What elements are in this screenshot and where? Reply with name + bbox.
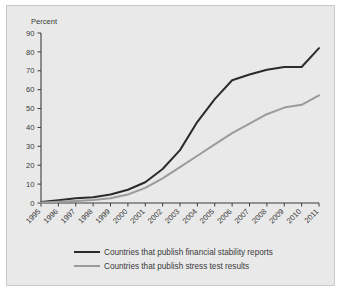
y-axis-ticks: 0102030405060708090	[26, 29, 41, 208]
x-axis-tick-label: 2004	[180, 207, 198, 225]
x-axis-tick-label: 2001	[128, 207, 146, 225]
x-axis-tick-label: 2003	[163, 207, 181, 225]
y-axis-tick-label: 80	[26, 48, 34, 57]
x-axis-tick-label: 1997	[59, 207, 77, 225]
chart-series-group	[41, 48, 319, 202]
y-axis-label: Percent	[31, 17, 58, 26]
y-axis-tick-label: 10	[26, 180, 34, 189]
x-axis-tick-label: 2008	[250, 207, 268, 225]
y-axis-tick-label: 50	[26, 104, 34, 113]
x-axis-tick-label: 1995	[24, 207, 42, 225]
y-axis-tick-label: 90	[26, 29, 34, 38]
x-axis-tick-label: 2000	[111, 207, 129, 225]
chart-figure: Percent 0102030405060708090 199519961997…	[0, 0, 341, 292]
line-chart: Percent 0102030405060708090 199519961997…	[0, 0, 341, 292]
x-axis-tick-label: 2005	[198, 207, 216, 225]
x-axis-ticks: 1995199619971998199920002001200220032004…	[24, 203, 320, 225]
y-axis-tick-label: 70	[26, 66, 34, 75]
y-axis-label-text: Percent	[31, 17, 58, 26]
series-line	[41, 48, 319, 202]
x-axis-tick-label: 2002	[146, 207, 164, 225]
x-axis-tick-label: 2011	[302, 207, 320, 225]
legend-label: Countries that publish financial stabili…	[104, 248, 273, 257]
x-axis-tick-label: 2006	[215, 207, 233, 225]
x-axis-tick-label: 1998	[76, 207, 94, 225]
x-axis-tick-label: 2009	[267, 207, 285, 225]
x-axis-tick-label: 1996	[41, 207, 59, 225]
y-axis-tick-label: 40	[26, 123, 34, 132]
y-axis-tick-label: 60	[26, 85, 34, 94]
y-axis-tick-label: 0	[30, 199, 34, 208]
x-axis-tick-label: 1999	[94, 207, 112, 225]
legend-label: Countries that publish stress test resul…	[104, 262, 249, 271]
y-axis-tick-label: 30	[26, 142, 34, 151]
x-axis-tick-label: 2007	[233, 207, 251, 225]
y-axis-tick-label: 20	[26, 161, 34, 170]
chart-legend: Countries that publish financial stabili…	[74, 248, 273, 271]
x-axis-tick-label: 2010	[285, 207, 303, 225]
